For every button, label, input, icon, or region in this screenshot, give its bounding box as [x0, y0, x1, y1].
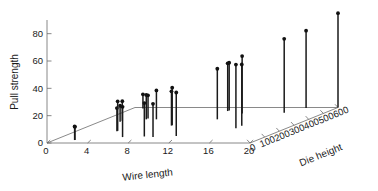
x-tick-label-16: 16: [203, 145, 214, 156]
data-point: [336, 11, 340, 107]
data-point: [282, 37, 286, 113]
z-tick-label-20: 20: [32, 110, 43, 121]
stem-marker-2: [174, 91, 178, 95]
z-tick-label-40: 40: [32, 83, 43, 94]
stem-marker-21: [282, 37, 286, 41]
stem-marker-18: [226, 61, 230, 65]
x-tick-label-0: 0: [43, 145, 48, 156]
data-point: [304, 29, 308, 108]
chart-3d-stem-plot: 0204060800481216200100200300400500600Pul…: [0, 0, 378, 191]
stem-marker-24: [155, 89, 159, 93]
x-axis-title: Wire length: [122, 166, 173, 182]
stem-marker-19: [234, 63, 238, 67]
y-tick-label-600: 600: [331, 104, 350, 120]
stem-marker-15: [144, 93, 148, 97]
x-tick-label-12: 12: [163, 145, 174, 156]
stem-marker-22: [304, 29, 308, 33]
stem-marker-11: [215, 67, 219, 71]
x-tick-16: [209, 140, 212, 143]
data-point: [215, 67, 219, 119]
x-tick-4: [88, 140, 91, 143]
data-point: [174, 91, 178, 136]
x-tick-12: [169, 140, 172, 143]
stems-layer: [73, 11, 340, 140]
x-tick-label-8: 8: [125, 145, 130, 156]
z-tick-label-60: 60: [32, 55, 43, 66]
stem-marker-6: [120, 99, 124, 103]
y-axis-title: Die height: [298, 141, 344, 168]
stem-marker-8: [151, 102, 155, 106]
z-tick-label-0: 0: [38, 137, 43, 148]
z-axis-title: Pull strength: [9, 54, 20, 110]
z-tick-label-80: 80: [32, 28, 43, 39]
stem-marker-20: [240, 63, 244, 67]
x-tick-8: [128, 140, 131, 143]
stem-marker-12: [240, 54, 244, 58]
stem-marker-17: [141, 92, 145, 96]
stem-marker-23: [121, 105, 125, 109]
stem-marker-7: [73, 125, 77, 129]
data-point: [121, 105, 125, 137]
stem-marker-9: [170, 86, 174, 90]
chart-canvas: 0204060800481216200100200300400500600Pul…: [0, 0, 378, 191]
data-point: [234, 63, 238, 129]
stem-marker-16: [336, 11, 340, 15]
stem-marker-14: [116, 99, 120, 103]
data-point: [240, 63, 244, 126]
data-point: [155, 89, 159, 120]
x-tick-label-4: 4: [84, 145, 89, 156]
labels-layer: 0204060800481216200100200300400500600Pul…: [9, 28, 350, 183]
